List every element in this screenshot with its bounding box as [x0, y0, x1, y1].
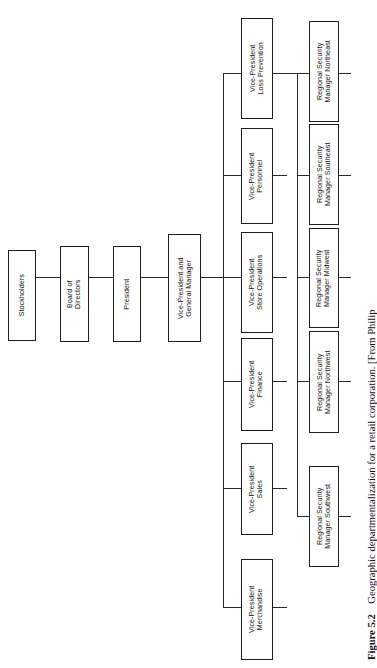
connector-trunk-vp-merchandise [223, 607, 241, 608]
figure-caption-text: Geographic departmentalization for a ret… [366, 309, 377, 603]
node-regional-security-manager-northwest-label: Regional Security Manager Northwest [316, 350, 333, 414]
connector-trunk-vp-finance [223, 381, 241, 382]
node-vice-president-merchandise[interactable]: Vice-President Merchandise [241, 559, 273, 660]
connector-trunk-vp-personnel [223, 175, 241, 176]
rsm-trunk-line [297, 73, 298, 516]
connector-vp-lossprev-rsm-trunk [273, 73, 298, 74]
node-stockholders-label: Stockholders [18, 274, 26, 316]
stub-rsm-southwest [339, 516, 351, 517]
node-vice-president-finance[interactable]: Vice-President Finance [241, 338, 273, 431]
stub-vp-sales [273, 488, 287, 489]
connector-trunk-vp-loss-prevention [223, 73, 241, 74]
node-vice-president-merchandise-label: Vice-President Merchandise [249, 586, 266, 633]
node-regional-security-manager-northeast-label: Regional Security Manager Northeast [316, 40, 333, 102]
stub-vp-finance [273, 381, 287, 382]
stub-rsm-northeast [339, 73, 351, 74]
node-vice-president-personnel[interactable]: Vice-President Personnel [241, 128, 273, 224]
stub-vp-store-operations [273, 277, 287, 278]
node-regional-security-manager-southwest[interactable]: Regional Security Manager Southwest [309, 466, 339, 567]
connector-trunk-rsm-southeast [297, 175, 309, 176]
node-regional-security-manager-southwest-label: Regional Security Manager Southwest [316, 484, 333, 549]
node-vice-president-personnel-label: Vice-President Personnel [249, 152, 266, 199]
node-regional-security-manager-northwest[interactable]: Regional Security Manager Northwest [309, 331, 339, 433]
node-vice-president-sales-label: Vice-President Sales [249, 465, 266, 512]
connector-stockholders-board [36, 277, 61, 278]
connector-trunk-rsm-northeast [297, 73, 309, 74]
node-vice-president-store-operations-label: Vice-President Store Operations [249, 255, 266, 310]
node-vice-president-store-operations[interactable]: Vice-President Store Operations [241, 232, 273, 333]
vp-trunk-line [223, 73, 224, 608]
node-vice-president-finance-label: Vice-President Finance [249, 361, 266, 408]
stub-rsm-midwest [339, 277, 351, 278]
stub-rsm-northwest [339, 381, 351, 382]
stub-vp-personnel [273, 175, 287, 176]
stub-vp-merchandise [273, 607, 287, 608]
node-vice-president-and-general-manager-label: Vice-President and General Manager [176, 257, 193, 319]
node-vice-president-loss-prevention[interactable]: Vice-President Loss Prevention [241, 18, 273, 119]
figure-caption: Figure 5.2 Geographic departmentalizatio… [366, 309, 377, 660]
node-regional-security-manager-midwest[interactable]: Regional Security Manager Midwest [309, 228, 339, 328]
connector-vpgm-trunk [201, 277, 224, 278]
node-regional-security-manager-southeast-label: Regional Security Manager Southeast [316, 143, 333, 207]
node-board-of-directors-label: Board of Directors [66, 279, 83, 308]
node-regional-security-manager-northeast[interactable]: Regional Security Manager Northeast [309, 21, 339, 122]
node-vice-president-loss-prevention-label: Vice-President Loss Prevention [249, 42, 266, 94]
stub-rsm-southeast [339, 175, 351, 176]
node-regional-security-manager-southeast[interactable]: Regional Security Manager Southeast [309, 124, 339, 225]
connector-trunk-vp-store-operations [223, 277, 241, 278]
connector-trunk-rsm-northwest [297, 381, 309, 382]
figure-number: Figure 5.2 [366, 614, 377, 660]
node-board-of-directors[interactable]: Board of Directors [60, 246, 89, 342]
node-vice-president-sales[interactable]: Vice-President Sales [241, 443, 273, 535]
connector-trunk-rsm-midwest [297, 277, 309, 278]
node-stockholders[interactable]: Stockholders [8, 250, 36, 341]
connector-trunk-vp-sales [223, 488, 241, 489]
node-regional-security-manager-midwest-label: Regional Security Manager Midwest [316, 249, 333, 306]
connector-board-president [88, 277, 114, 278]
connector-trunk-rsm-southwest [297, 516, 309, 517]
node-vice-president-and-general-manager[interactable]: Vice-President and General Manager [168, 234, 201, 342]
connector-president-vpgm [141, 277, 168, 278]
node-president[interactable]: President [113, 246, 141, 342]
node-president-label: President [123, 279, 131, 310]
